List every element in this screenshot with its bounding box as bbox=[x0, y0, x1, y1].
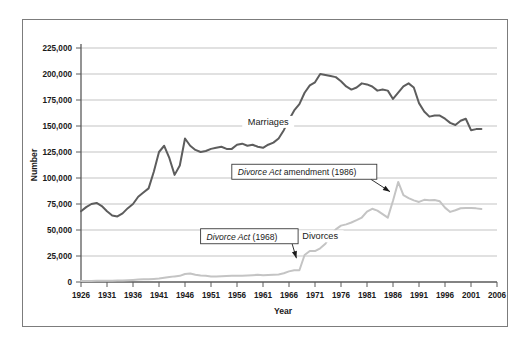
x-tick-label: 1991 bbox=[410, 291, 429, 300]
x-tick-label: 1981 bbox=[358, 291, 377, 300]
annotation-divorce-act-amendment-1986: Divorce Act amendment (1986) bbox=[232, 164, 390, 191]
annotation-text: Divorce Act amendment (1986) bbox=[238, 167, 357, 177]
x-tick-label: 1986 bbox=[384, 291, 403, 300]
annotation-arrowhead bbox=[292, 251, 297, 258]
x-tick-label: 1996 bbox=[436, 291, 455, 300]
annotation-text-roman: amendment (1986) bbox=[281, 167, 356, 177]
series-line-marriages bbox=[81, 74, 481, 216]
y-tick-label: 175,000 bbox=[42, 96, 72, 105]
y-tick-label: 225,000 bbox=[42, 44, 72, 53]
x-tick-label: 2006 bbox=[488, 291, 507, 300]
x-tick-label: 1956 bbox=[228, 291, 247, 300]
x-tick-label: 1976 bbox=[332, 291, 351, 300]
x-tick-label: 1966 bbox=[280, 291, 299, 300]
annotation-text-italic: Divorce Act bbox=[207, 232, 251, 242]
annotation-text: Divorce Act (1968) bbox=[207, 232, 278, 242]
x-tick-label: 1951 bbox=[202, 291, 221, 300]
annotation-divorce-act-1968: Divorce Act (1968) bbox=[201, 229, 299, 258]
y-tick-label: 25,000 bbox=[47, 252, 72, 261]
series-label-text: Divorces bbox=[302, 231, 338, 241]
x-tick-label: 1926 bbox=[72, 291, 91, 300]
y-tick-label: 0 bbox=[67, 278, 72, 287]
x-axis-title: Year bbox=[274, 306, 293, 316]
annotation-arrowhead bbox=[383, 186, 390, 192]
y-tick-label: 75,000 bbox=[47, 200, 72, 209]
annotation-text-roman: (1968) bbox=[250, 232, 277, 242]
x-tick-label: 1936 bbox=[124, 291, 143, 300]
series-label-divorces: Divorces bbox=[297, 230, 344, 242]
x-tick-label: 1941 bbox=[150, 291, 169, 300]
y-axis-title: Number bbox=[29, 148, 39, 181]
series-label-marriages: Marriages bbox=[242, 116, 294, 128]
x-tick-label: 1961 bbox=[254, 291, 273, 300]
x-tick-label: 1971 bbox=[306, 291, 325, 300]
y-tick-label: 125,000 bbox=[42, 148, 72, 157]
x-tick-label: 1946 bbox=[176, 291, 195, 300]
annotation-text-italic: Divorce Act bbox=[238, 167, 282, 177]
y-tick-label: 200,000 bbox=[42, 70, 72, 79]
x-tick-label: 2001 bbox=[462, 291, 481, 300]
chart-frame: 025,00050,00075,000100,000125,000150,000… bbox=[22, 19, 508, 327]
x-tick-label: 1931 bbox=[98, 291, 117, 300]
y-tick-label: 100,000 bbox=[42, 174, 72, 183]
series-label-text: Marriages bbox=[248, 117, 289, 127]
y-tick-label: 50,000 bbox=[47, 226, 72, 235]
line-chart: 025,00050,00075,000100,000125,000150,000… bbox=[23, 20, 507, 326]
y-tick-label: 150,000 bbox=[42, 122, 72, 131]
figure-root: 025,00050,00075,000100,000125,000150,000… bbox=[0, 0, 529, 355]
svg-text:Number: Number bbox=[29, 148, 39, 181]
